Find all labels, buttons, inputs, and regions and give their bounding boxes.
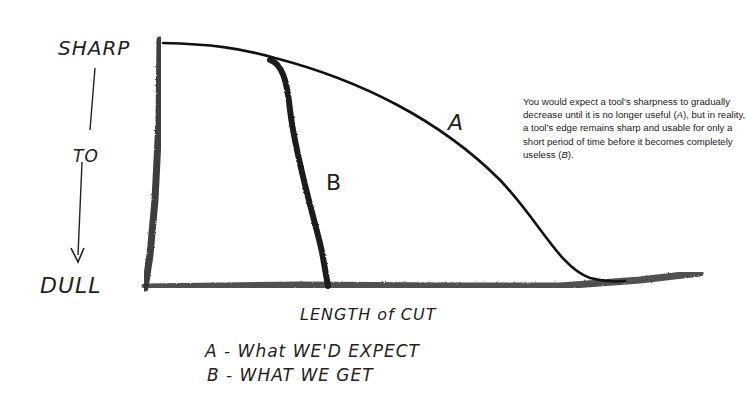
label-to: TO <box>73 146 99 166</box>
x-axis-label: LENGTH of CUT <box>300 305 437 324</box>
label-curve-a: A <box>446 110 464 135</box>
label-dull: DULL <box>40 273 102 298</box>
label-curve-b: B <box>326 170 342 195</box>
caption-text: You would expect a tool’s sharpness to g… <box>523 95 747 161</box>
legend-a: A - What WE'D EXPECT <box>204 341 421 361</box>
curve-a <box>163 43 625 282</box>
label-sharp: SHARP <box>58 36 130 60</box>
arrow-head-icon <box>71 248 84 262</box>
x-axis <box>145 273 700 287</box>
sharpness-chart: SHARP TO DULL A B LENGTH of CUT A - What… <box>0 0 747 411</box>
curve-b <box>270 60 328 286</box>
legend-b: B - WHAT WE GET <box>207 365 374 385</box>
caption-part3: ). <box>568 149 574 160</box>
y-axis <box>145 40 160 288</box>
